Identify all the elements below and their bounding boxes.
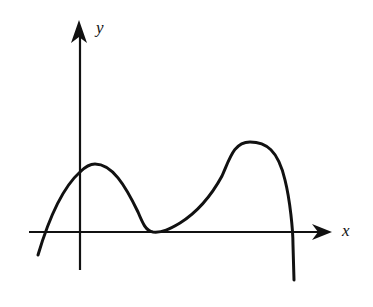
y-axis-label: y [96,18,104,38]
function-graph [0,0,373,307]
function-curve [38,142,294,280]
x-axis-label: x [342,221,350,241]
